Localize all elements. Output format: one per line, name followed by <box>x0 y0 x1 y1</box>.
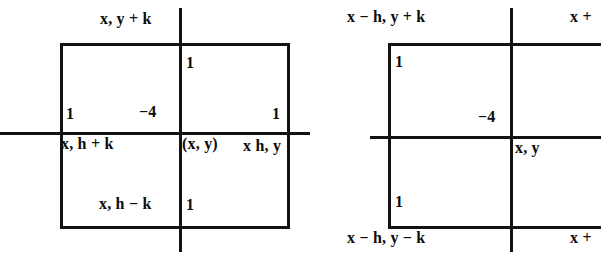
left-box-top-edge <box>60 43 290 46</box>
right-vertical-axis <box>510 8 513 252</box>
left-top-node-label: x, y + k <box>100 10 152 27</box>
right-center-coefficient: −4 <box>478 108 496 125</box>
stencil-figure: 1 1 1 1 −4 x, y + k x, h + k (x, y) x h,… <box>0 0 601 259</box>
left-coefficient-top: 1 <box>186 54 194 71</box>
right-top-left-node-label: x − h, y + k <box>347 8 425 25</box>
left-horizontal-axis <box>0 132 310 135</box>
right-bottom-right-node-label: x + <box>570 229 592 246</box>
right-top-right-node-label: x + <box>570 8 592 25</box>
right-stencil-panel: 1 1 −4 x − h, y + k x + x, y x − h, y − … <box>310 0 601 259</box>
right-center-node-label: x, y <box>515 139 540 156</box>
left-bottom-node-label: x, h − k <box>99 195 152 212</box>
left-stencil-panel: 1 1 1 1 −4 x, y + k x, h + k (x, y) x h,… <box>0 0 310 259</box>
left-box-bottom-edge <box>60 226 290 229</box>
left-vertical-axis <box>179 8 182 252</box>
left-left-node-label: x, h + k <box>61 135 114 152</box>
right-coefficient-bottom-left: 1 <box>395 193 403 210</box>
left-coefficient-left: 1 <box>66 105 74 122</box>
left-center-coefficient: −4 <box>139 103 157 120</box>
left-coefficient-right: 1 <box>272 105 280 122</box>
right-coefficient-top-left: 1 <box>395 53 403 70</box>
right-bottom-left-node-label: x − h, y − k <box>347 229 425 246</box>
right-horizontal-axis <box>370 136 601 139</box>
left-box-right-edge <box>287 43 290 229</box>
left-coefficient-bottom: 1 <box>186 196 194 213</box>
left-right-node-label: x h, y <box>243 137 281 154</box>
left-center-node-label: (x, y) <box>182 135 218 152</box>
right-box-top-edge <box>388 43 601 46</box>
